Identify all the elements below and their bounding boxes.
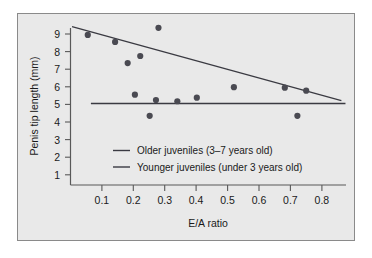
data-point bbox=[303, 88, 309, 94]
x-tick-label: 0.8 bbox=[315, 194, 330, 206]
y-tick-label: 5 bbox=[54, 98, 60, 110]
x-tick-labels: 0.1 0.2 0.3 0.4 0.5 0.6 0.7 0.8 bbox=[95, 194, 330, 206]
data-point bbox=[147, 113, 153, 119]
scatter-plot: 9 8 7 6 5 4 3 2 1 0.1 0.2 0.3 0.4 bbox=[18, 14, 354, 240]
data-point bbox=[294, 113, 300, 119]
x-tick-label: 0.3 bbox=[157, 194, 172, 206]
x-tick-label: 0.2 bbox=[126, 194, 141, 206]
trend-line-older bbox=[72, 27, 341, 101]
legend-label-younger: Younger juveniles (under 3 years old) bbox=[137, 162, 302, 173]
x-tick-label: 0.4 bbox=[189, 194, 204, 206]
x-tick-label: 0.6 bbox=[252, 194, 267, 206]
y-axis-title: Penis tip length (mm) bbox=[28, 56, 40, 155]
y-tick-label: 6 bbox=[54, 81, 60, 93]
data-point bbox=[194, 95, 200, 101]
x-tick-label: 0.7 bbox=[283, 194, 298, 206]
y-tick-marks bbox=[65, 34, 71, 175]
y-tick-label: 1 bbox=[54, 169, 60, 181]
y-tick-label: 3 bbox=[54, 134, 60, 146]
data-point bbox=[125, 60, 131, 66]
data-point bbox=[153, 97, 159, 103]
legend-label-older: Older juveniles (3–7 years old) bbox=[137, 145, 273, 156]
chart-legend: Older juveniles (3–7 years old) Younger … bbox=[113, 145, 302, 173]
y-tick-label: 9 bbox=[54, 28, 60, 40]
x-tick-marks bbox=[102, 185, 322, 191]
y-tick-label: 7 bbox=[54, 63, 60, 75]
data-point bbox=[174, 98, 180, 104]
data-point bbox=[112, 39, 118, 45]
data-point bbox=[132, 92, 138, 98]
y-tick-label: 4 bbox=[54, 116, 60, 128]
chart-figure: 9 8 7 6 5 4 3 2 1 0.1 0.2 0.3 0.4 bbox=[17, 13, 355, 241]
y-tick-label: 8 bbox=[54, 46, 60, 58]
x-axis-title: E/A ratio bbox=[188, 217, 228, 229]
data-point bbox=[231, 84, 237, 90]
y-tick-labels: 9 8 7 6 5 4 3 2 1 bbox=[54, 28, 60, 181]
x-tick-label: 0.5 bbox=[220, 194, 235, 206]
y-tick-label: 2 bbox=[54, 151, 60, 163]
data-point bbox=[137, 53, 143, 59]
data-point bbox=[85, 32, 91, 38]
data-point bbox=[282, 85, 288, 91]
x-tick-label: 0.1 bbox=[95, 194, 110, 206]
data-point bbox=[155, 25, 161, 31]
